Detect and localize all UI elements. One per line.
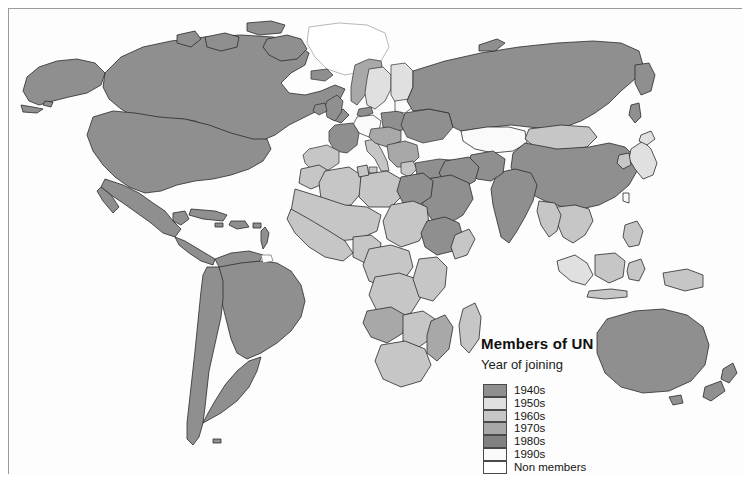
island-jamaica bbox=[215, 223, 223, 227]
legend-item: 1990s bbox=[483, 448, 659, 461]
legend-item: Non members bbox=[483, 461, 659, 474]
island-falklands bbox=[213, 439, 221, 443]
country-tunisia bbox=[357, 165, 369, 177]
legend-label-1960s: 1960s bbox=[514, 410, 545, 423]
map-figure: Members of UN Year of joining 1940s 1950… bbox=[0, 0, 752, 484]
country-libya bbox=[359, 171, 401, 207]
legend-item: 1960s bbox=[483, 410, 659, 423]
country-taiwan bbox=[623, 193, 629, 203]
country-indonesia-java bbox=[587, 289, 627, 299]
legend-swatch-1980s bbox=[483, 435, 507, 448]
map-legend: Members of UN Year of joining 1940s 1950… bbox=[479, 335, 659, 474]
island-ellesmere bbox=[247, 21, 285, 35]
legend-label-1980s: 1980s bbox=[514, 435, 545, 448]
legend-swatch-1960s bbox=[483, 410, 507, 423]
legend-entries: 1940s 1950s 1960s 1970s 1980s bbox=[483, 384, 659, 474]
legend-item: 1950s bbox=[483, 397, 659, 410]
island-puerto-rico bbox=[253, 223, 261, 228]
legend-item: 1980s bbox=[483, 435, 659, 448]
legend-item: 1970s bbox=[483, 422, 659, 435]
legend-label-1950s: 1950s bbox=[514, 397, 545, 410]
legend-title: Members of UN bbox=[481, 335, 659, 352]
legend-label-1970s: 1970s bbox=[514, 422, 545, 435]
legend-item: 1940s bbox=[483, 384, 659, 397]
map-frame: Members of UN Year of joining 1940s 1950… bbox=[8, 8, 742, 474]
legend-swatch-1940s bbox=[483, 384, 507, 397]
legend-swatch-1970s bbox=[483, 422, 507, 435]
legend-label-non-members: Non members bbox=[514, 461, 586, 474]
legend-swatch-1950s bbox=[483, 397, 507, 410]
island-sicily-sardinia bbox=[369, 167, 377, 173]
legend-swatch-non-members bbox=[483, 461, 507, 474]
legend-label-1990s: 1990s bbox=[514, 448, 545, 461]
legend-label-1940s: 1940s bbox=[514, 384, 545, 397]
legend-subtitle: Year of joining bbox=[481, 357, 659, 372]
legend-swatch-1990s bbox=[483, 448, 507, 461]
